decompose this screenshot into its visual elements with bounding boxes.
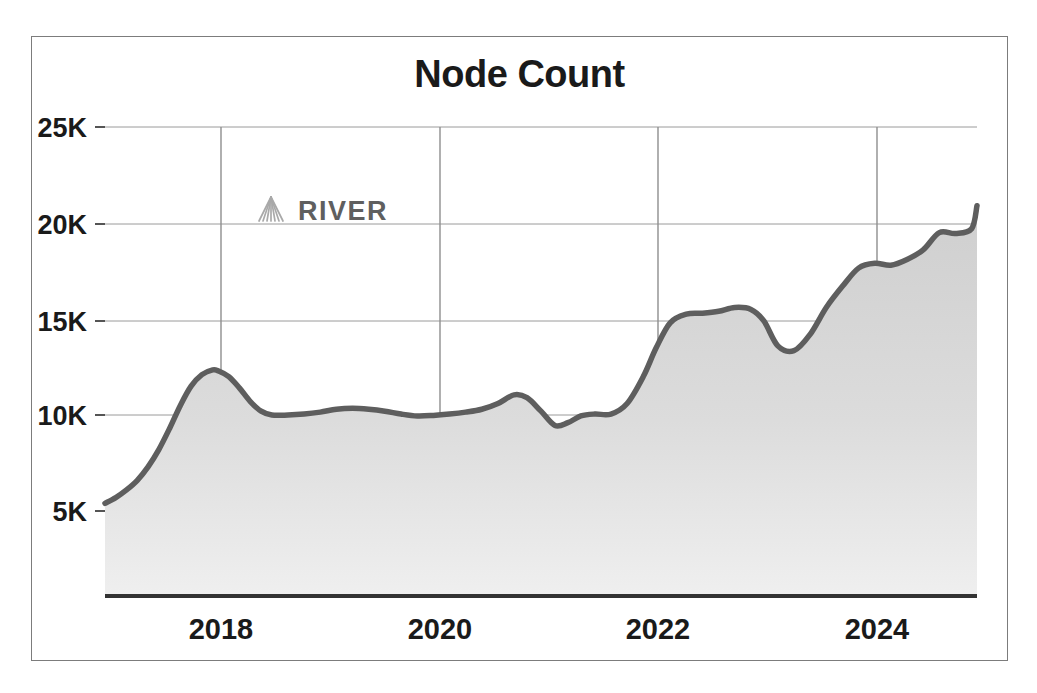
y-tick-marks <box>95 127 105 511</box>
x-tick-label: 2022 <box>626 613 691 645</box>
y-tick-label: 15K <box>37 307 87 337</box>
figure-frame: Node Count <box>31 36 1008 661</box>
x-tick-label: 2024 <box>845 613 910 645</box>
y-tick-label: 10K <box>37 401 87 431</box>
area-fill <box>105 206 977 596</box>
x-tick-labels: 2018 2020 2022 2024 <box>189 613 910 645</box>
y-tick-label: 20K <box>37 210 87 240</box>
area-chart-plot: 25K 20K 15K 10K 5K 2018 2020 2022 2024 <box>32 37 1009 662</box>
y-tick-label: 5K <box>52 497 87 527</box>
chart-screenshot: Node Count <box>0 0 1037 693</box>
x-tick-label: 2018 <box>189 613 254 645</box>
x-tick-label: 2020 <box>408 613 473 645</box>
y-tick-label: 25K <box>37 113 87 143</box>
y-tick-labels: 25K 20K 15K 10K 5K <box>37 113 87 527</box>
